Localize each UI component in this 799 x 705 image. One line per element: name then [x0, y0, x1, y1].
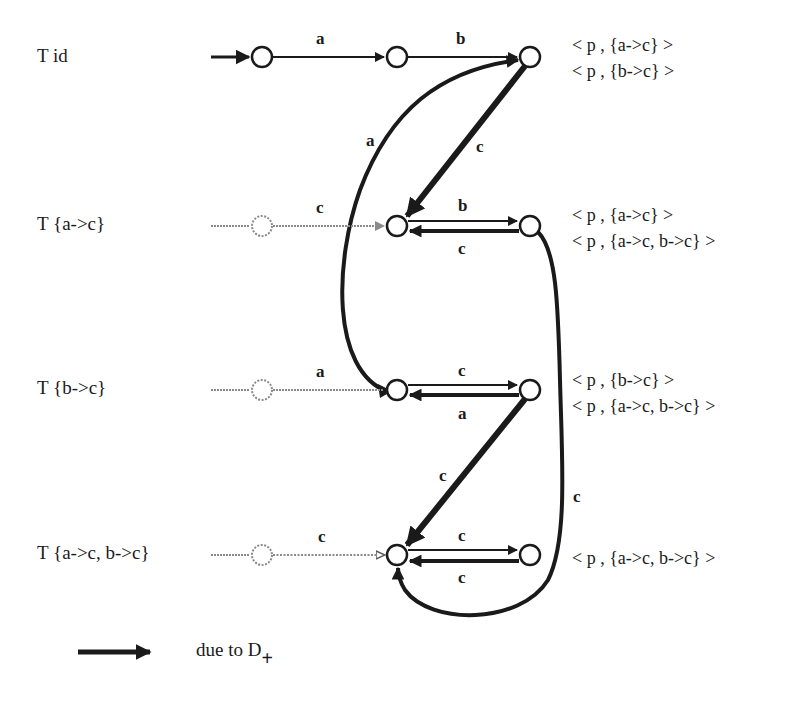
- edge-label: a: [458, 404, 467, 424]
- edge-label: a: [316, 362, 325, 382]
- row-label-t-a-c: T {a->c}: [37, 213, 105, 235]
- state-node: [387, 380, 407, 400]
- ghost-state-node: [252, 380, 272, 400]
- state-node: [387, 545, 407, 565]
- edge-label: c: [458, 239, 466, 259]
- state-annotation: < p , {b->c} >: [572, 59, 674, 83]
- state-annotation: < p , {a->c} >: [572, 203, 673, 227]
- edge-label: a: [366, 131, 375, 151]
- state-annotation: < p , {a->c} >: [572, 33, 673, 57]
- state-node: [520, 380, 540, 400]
- edge-diag-c-dplus-1: [407, 66, 525, 216]
- legend-text: due to D: [196, 639, 261, 660]
- state-annotation: < p , {b->c} >: [572, 368, 674, 392]
- state-node: [252, 47, 272, 67]
- state-node: [520, 216, 540, 236]
- edge-label: c: [316, 198, 324, 218]
- edge-label: c: [318, 527, 326, 547]
- state-node: [387, 47, 407, 67]
- state-node: [387, 216, 407, 236]
- edge-label: c: [458, 361, 466, 381]
- ghost-state-node: [252, 545, 272, 565]
- state-node: [520, 47, 540, 67]
- edge-label: b: [458, 196, 467, 216]
- legend-subscript: +: [261, 647, 272, 669]
- edge-label: c: [476, 137, 484, 157]
- edge-label: c: [458, 568, 466, 588]
- state-annotation: < p , {a->c, b->c} >: [572, 229, 715, 253]
- row-label-tid: T id: [37, 45, 68, 67]
- row-label-t-a-c-b-c: T {a->c, b->c}: [37, 542, 150, 564]
- legend-label: due to D+: [196, 639, 273, 666]
- edge-label: b: [456, 29, 465, 49]
- state-annotation: < p , {a->c, b->c} >: [572, 394, 715, 418]
- edge-label: c: [573, 487, 581, 507]
- edge-label: c: [439, 466, 447, 486]
- ghost-state-node: [252, 216, 272, 236]
- edge-label: a: [316, 29, 325, 49]
- row-label-t-b-c: T {b->c}: [37, 377, 106, 399]
- state-annotation: < p , {a->c, b->c} >: [572, 546, 715, 570]
- state-node: [520, 545, 540, 565]
- edge-label: c: [458, 526, 466, 546]
- automaton-diagram: [0, 0, 799, 705]
